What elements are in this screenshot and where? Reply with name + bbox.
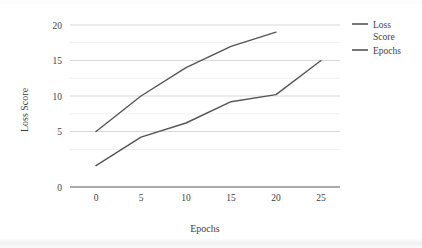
legend-label-epochs: Epochs [373,46,401,56]
legend: Loss Score Epochs [352,20,401,56]
y-tick-label-0: 0 [57,183,62,193]
y-axis-tick-labels: 20 15 10 5 0 [53,21,63,193]
legend-item-loss-score[interactable]: Loss Score [352,20,395,42]
x-tick-label-15: 15 [226,193,236,203]
chart-canvas: 20 15 10 5 0 0 5 10 15 20 25 Epochs Loss… [0,0,422,248]
x-tick-label-0: 0 [94,193,99,203]
legend-label-loss-score-line1: Loss [373,20,391,30]
legend-item-epochs[interactable]: Epochs [352,46,401,56]
y-tick-label-5: 5 [57,127,62,137]
y-tick-label-10: 10 [53,92,63,102]
line-chart: 20 15 10 5 0 0 5 10 15 20 25 Epochs Loss… [0,0,422,248]
x-tick-label-20: 20 [271,193,281,203]
series-line-epochs [96,61,321,166]
series-line-loss-score [96,32,276,131]
x-axis-tick-labels: 0 5 10 15 20 25 [94,193,326,203]
legend-label-loss-score-line2: Score [373,32,395,42]
x-tick-label-25: 25 [316,193,326,203]
y-tick-label-15: 15 [53,56,63,66]
y-axis-title: Loss Score [19,87,30,132]
x-tick-label-10: 10 [181,193,191,203]
y-tick-label-20: 20 [53,21,63,31]
x-axis-title: Epochs [190,223,220,234]
x-tick-label-5: 5 [139,193,144,203]
